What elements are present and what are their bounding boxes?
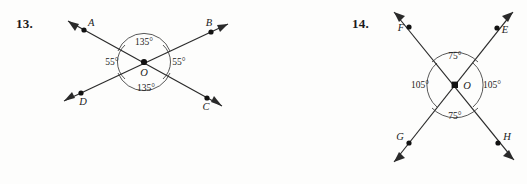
- point-dot-b: [208, 29, 213, 34]
- arrowhead-h: [503, 150, 514, 160]
- arrowhead-b: [217, 24, 228, 32]
- angle-label-bottom-14: 75°: [448, 111, 462, 121]
- worksheet-page: 13. A B C: [0, 0, 527, 184]
- figure-14-intersecting-lines: F E H G O 75° 105° 105° 75°: [264, 0, 527, 184]
- arrowhead-d: [64, 92, 75, 101]
- arrowhead-c: [211, 96, 222, 106]
- point-label-h: H: [502, 131, 512, 142]
- point-dot-a: [81, 27, 86, 32]
- point-label-d: D: [78, 96, 87, 107]
- point-label-a: A: [87, 17, 95, 28]
- point-label-b: B: [206, 17, 213, 28]
- point-label-g: G: [396, 131, 404, 142]
- arrowhead-g: [394, 152, 405, 162]
- point-dot-g: [406, 140, 411, 145]
- angle-label-top-14: 75°: [448, 51, 462, 61]
- point-dot-c: [204, 95, 209, 100]
- point-label-f: F: [397, 22, 405, 33]
- vertex-label-o-13: O: [140, 67, 148, 78]
- point-dot-e: [494, 25, 499, 30]
- vertex-dot-o-14: [452, 82, 458, 88]
- angle-label-left-13: 55°: [105, 57, 119, 67]
- point-dot-f: [406, 24, 411, 29]
- point-dot-d: [78, 90, 83, 95]
- angle-label-left-14: 105°: [411, 80, 429, 90]
- point-label-c: C: [202, 101, 210, 112]
- vertex-dot-o-13: [141, 59, 147, 65]
- angle-label-right-13: 55°: [172, 57, 186, 67]
- vertex-label-o-14: O: [463, 80, 471, 91]
- arrowhead-a: [68, 21, 79, 31]
- point-label-e: E: [501, 24, 509, 35]
- angle-label-top-13: 135°: [135, 37, 153, 47]
- angle-label-bottom-13: 135°: [137, 83, 155, 93]
- problem-13: 13. A B C: [0, 0, 264, 184]
- point-dot-h: [495, 140, 500, 145]
- arc-angle-right-14: [473, 63, 483, 107]
- arrowhead-f: [394, 12, 405, 22]
- figure-13-intersecting-lines: A B C D O 135° 55° 55° 135°: [0, 0, 264, 184]
- arrowhead-e: [502, 12, 513, 22]
- angle-label-right-14: 105°: [483, 80, 501, 90]
- problem-14: 14. F E H: [264, 0, 527, 184]
